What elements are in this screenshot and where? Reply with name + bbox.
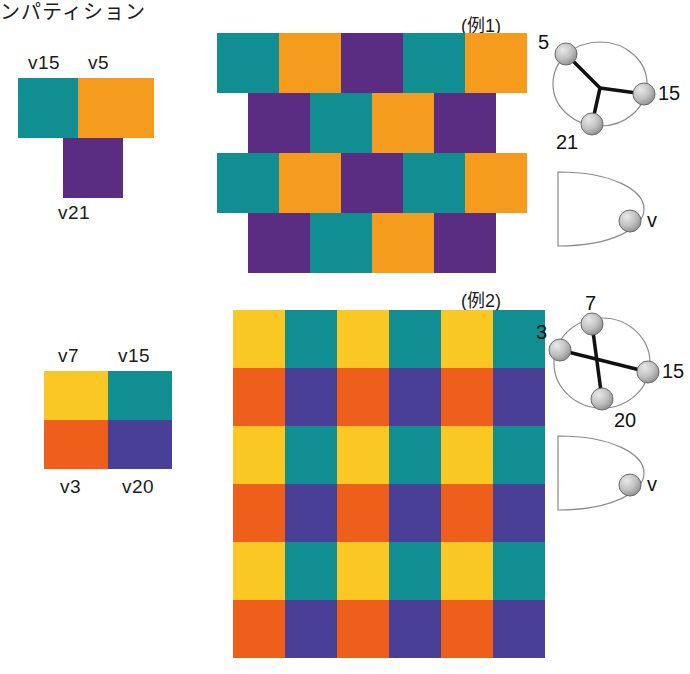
pattern2-cell xyxy=(493,426,545,484)
example2-loop-node[interactable] xyxy=(619,474,641,496)
pattern2-cell xyxy=(441,310,493,368)
pattern1-cell xyxy=(372,93,434,153)
example2-node-label-15: 15 xyxy=(662,361,684,381)
example2-pattern xyxy=(233,310,545,658)
pattern2-cell xyxy=(389,310,441,368)
pattern2-cell xyxy=(233,600,285,658)
example1-tile-cell-v15 xyxy=(18,78,78,138)
pattern1-cell xyxy=(434,213,496,273)
pattern2-cell xyxy=(337,484,389,542)
example2-tile-cell-v20 xyxy=(108,420,172,469)
pattern2-cell xyxy=(493,484,545,542)
example2-loop-shape xyxy=(558,436,644,510)
example1-loop-shape xyxy=(558,172,644,246)
page-title: ンパティション xyxy=(0,0,146,25)
pattern2-cell xyxy=(389,368,441,426)
example2-node-label-7: 7 xyxy=(585,293,596,313)
pattern2-cell xyxy=(389,600,441,658)
pattern2-cell xyxy=(389,484,441,542)
pattern2-cell xyxy=(233,310,285,368)
pattern2-cell xyxy=(493,368,545,426)
pattern2-cell xyxy=(493,600,545,658)
example1-label-v15: v15 xyxy=(28,53,60,72)
example1-node-label-21: 21 xyxy=(556,132,578,152)
pattern1-cell xyxy=(403,33,465,93)
example1-node-label-5: 5 xyxy=(538,32,549,52)
example2-label-v15: v15 xyxy=(118,346,150,365)
example2-node[interactable] xyxy=(637,361,659,383)
example1-loop-svg xyxy=(548,168,688,250)
example2-tile-block xyxy=(44,371,172,469)
example1-label-v5: v5 xyxy=(88,53,109,72)
pattern2-cell xyxy=(337,426,389,484)
pattern2-cell xyxy=(441,542,493,600)
example2-label-v7: v7 xyxy=(58,346,79,365)
pattern2-cell xyxy=(337,368,389,426)
example2-node[interactable] xyxy=(549,339,571,361)
pattern2-cell xyxy=(285,426,337,484)
example1-node[interactable] xyxy=(581,113,603,135)
example2-node[interactable] xyxy=(591,388,613,410)
example2-node-label-20: 20 xyxy=(614,410,636,430)
example2-tile-cell-v7 xyxy=(44,371,108,420)
example1-tile-cell-v21 xyxy=(63,138,123,198)
pattern2-cell xyxy=(493,542,545,600)
pattern2-cell xyxy=(285,368,337,426)
pattern2-cell xyxy=(441,368,493,426)
pattern1-cell xyxy=(465,153,527,213)
example2-label-v20: v20 xyxy=(122,477,154,496)
pattern2-cell xyxy=(233,542,285,600)
example1-node[interactable] xyxy=(633,83,655,105)
pattern2-cell xyxy=(337,600,389,658)
example2-loop-svg xyxy=(548,432,688,514)
pattern2-cell xyxy=(285,600,337,658)
pattern1-cell xyxy=(279,153,341,213)
pattern1-cell xyxy=(372,213,434,273)
example1-loop-node[interactable] xyxy=(619,210,641,232)
pattern1-cell xyxy=(310,93,372,153)
example1-pattern xyxy=(217,33,527,271)
pattern1-cell xyxy=(465,33,527,93)
example1-graph: 5 15 21 xyxy=(540,30,690,160)
pattern1-cell xyxy=(434,93,496,153)
example1-node-label-15: 15 xyxy=(658,83,680,103)
pattern1-cell xyxy=(310,213,372,273)
pattern1-cell xyxy=(217,153,279,213)
example1-loop-graph: v xyxy=(548,168,688,250)
example1-tile-cell-v5 xyxy=(78,78,154,138)
example2-caption: (例2) xyxy=(461,286,501,312)
pattern1-cell xyxy=(279,33,341,93)
pattern2-cell xyxy=(285,484,337,542)
pattern2-cell xyxy=(389,426,441,484)
pattern2-cell xyxy=(285,310,337,368)
example2-graph: 7 3 15 20 xyxy=(540,300,690,435)
pattern2-cell xyxy=(233,426,285,484)
example2-tile-cell-v3 xyxy=(44,420,108,469)
example2-tile-cell-v15 xyxy=(108,371,172,420)
pattern2-cell xyxy=(441,600,493,658)
pattern1-cell xyxy=(248,213,310,273)
pattern1-cell xyxy=(217,33,279,93)
example2-label-v3: v3 xyxy=(60,477,81,496)
pattern2-cell xyxy=(233,368,285,426)
example1-node[interactable] xyxy=(555,43,577,65)
pattern1-cell xyxy=(341,153,403,213)
pattern2-cell xyxy=(337,542,389,600)
example2-loop-graph: v xyxy=(548,432,688,514)
pattern2-cell xyxy=(233,484,285,542)
pattern2-cell xyxy=(441,426,493,484)
example2-loop-node-label: v xyxy=(647,474,657,494)
pattern2-cell xyxy=(389,542,441,600)
example2-node-label-3: 3 xyxy=(536,322,547,342)
example2-edge xyxy=(560,350,648,372)
pattern1-cell xyxy=(403,153,465,213)
example1-label-v21: v21 xyxy=(58,203,90,222)
example1-tile-block xyxy=(18,78,158,213)
pattern2-cell xyxy=(441,484,493,542)
example1-loop-node-label: v xyxy=(647,210,657,230)
pattern2-cell xyxy=(337,310,389,368)
pattern1-cell xyxy=(248,93,310,153)
example2-node[interactable] xyxy=(581,313,603,335)
pattern1-cell xyxy=(341,33,403,93)
pattern2-cell xyxy=(285,542,337,600)
